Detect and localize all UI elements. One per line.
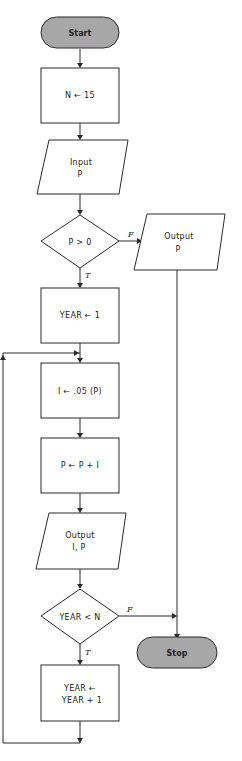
process-update-p: P ← P + I [41,438,119,493]
io-output-p: Output P [134,214,225,270]
calc-i-label: I ← .05 (P) [58,387,102,396]
output-ip-line1: Output [65,531,95,540]
output-p-line1: Output [164,232,194,241]
check-p-false-label: F [127,230,134,239]
init-year-label: YEAR ← 1 [59,311,100,320]
arrowhead [77,508,83,513]
input-p-line1: Input [70,158,92,167]
output-ip-line2: I, P [72,543,85,552]
input-p-line2: P [77,170,82,179]
arrowhead [77,210,83,215]
process-init-n: N ← 15 [41,68,119,123]
inc-year-line2: YEAR + 1 [61,696,102,705]
io-input-p: Input P [37,140,128,194]
check-year-true-label: T [85,648,91,657]
stop-label: Stop [167,649,188,658]
arrowhead [77,584,83,589]
decision-check-p: P > 0 [41,215,119,268]
update-p-label: P ← P + I [61,461,99,470]
arrowhead [77,283,83,288]
arrowhead [77,738,83,743]
arrowhead [77,433,83,438]
process-calc-i: I ← .05 (P) [41,363,119,418]
decision-check-year: YEAR < N [41,589,119,644]
inc-year-line1: YEAR ← [63,684,96,693]
arrowhead [0,355,6,360]
check-p-true-label: T [85,271,91,280]
check-year-label: YEAR < N [58,613,100,622]
io-output-ip: Output I, P [36,513,126,569]
stop-terminal: Stop [137,637,217,668]
check-p-label: P > 0 [68,238,91,247]
start-terminal: Start [41,17,119,48]
arrowhead [77,660,83,665]
arrowhead [77,358,83,363]
check-year-false-label: F [126,605,133,614]
process-inc-year: YEAR ← YEAR + 1 [41,665,119,721]
arrowhead [74,350,79,356]
start-label: Start [69,29,92,38]
output-p-line2: P [175,245,180,254]
process-init-year: YEAR ← 1 [41,288,119,343]
arrowhead [77,135,83,140]
arrowhead [77,63,83,68]
init-n-label: N ← 15 [65,91,95,100]
arrowhead [172,613,177,619]
flowchart: Start N ← 15 Input P P > 0 F T Output P … [0,0,242,761]
